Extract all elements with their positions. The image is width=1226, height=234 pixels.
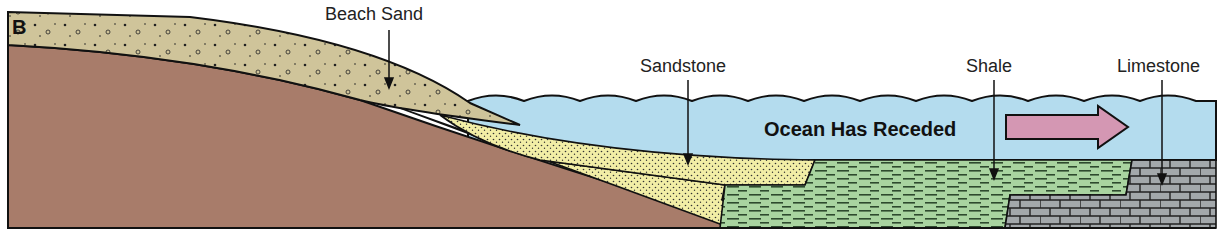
panel-letter: B bbox=[12, 16, 26, 39]
label-shale: Shale bbox=[966, 56, 1012, 77]
label-ocean-receded: Ocean Has Receded bbox=[764, 118, 956, 141]
geologic-cross-section bbox=[0, 0, 1226, 234]
label-sandstone: Sandstone bbox=[640, 56, 726, 77]
label-limestone: Limestone bbox=[1117, 56, 1200, 77]
label-beach-sand: Beach Sand bbox=[325, 4, 423, 25]
